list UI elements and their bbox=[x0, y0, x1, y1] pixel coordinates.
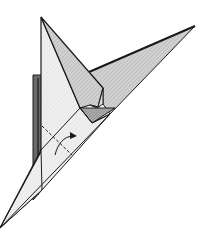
right-point bbox=[89, 26, 195, 114]
origami-diagram: Folded paper model step with a pointed f… bbox=[0, 0, 209, 249]
origami-figure bbox=[0, 0, 209, 249]
